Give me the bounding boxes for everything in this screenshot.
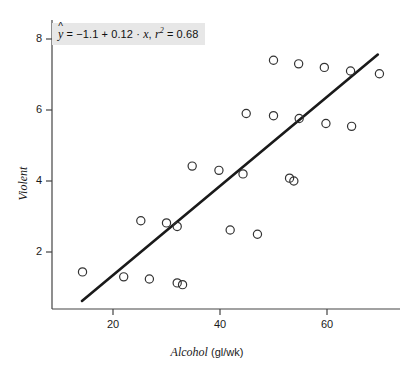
tick-marks [46, 39, 327, 315]
x-axis-title-italic: Alcohol [171, 345, 208, 359]
data-point [162, 219, 170, 227]
data-point [137, 217, 145, 225]
data-points [78, 56, 383, 289]
y-tick-label: 6 [30, 103, 42, 115]
data-point [239, 170, 247, 178]
data-point [145, 275, 153, 283]
fit-line [82, 55, 378, 301]
data-point [253, 230, 261, 238]
data-point [178, 281, 186, 289]
regression-line [82, 55, 378, 301]
y-tick-label: 2 [30, 245, 42, 257]
data-point [120, 273, 128, 281]
data-point [242, 109, 250, 117]
x-tick-label: 60 [318, 318, 336, 330]
data-point [375, 70, 383, 78]
x-axis-title-rest: (gl/wk) [208, 346, 243, 358]
data-point [215, 166, 223, 174]
x-axis-title: Alcohol (gl/wk) [0, 345, 414, 360]
axes [52, 20, 400, 309]
data-point [173, 279, 181, 287]
data-point [295, 60, 303, 68]
data-point [269, 56, 277, 64]
regression-annotation: y = −1.1 + 0.12 · x, r2 = 0.68 [52, 23, 205, 45]
data-point [226, 226, 234, 234]
data-point [320, 63, 328, 71]
data-point [322, 119, 330, 127]
y-tick-label: 8 [30, 32, 42, 44]
x-tick-label: 20 [104, 318, 122, 330]
y-axis-title: Violent [16, 149, 31, 219]
data-point [348, 122, 356, 130]
plot-canvas [0, 0, 414, 377]
data-point [269, 112, 277, 120]
x-tick-label: 40 [211, 318, 229, 330]
data-point [346, 67, 354, 75]
data-point [78, 268, 86, 276]
scatter-plot-figure: y = −1.1 + 0.12 · x, r2 = 0.68 Alcohol (… [0, 0, 414, 377]
y-tick-label: 4 [30, 174, 42, 186]
data-point [188, 162, 196, 170]
data-point [173, 222, 181, 230]
